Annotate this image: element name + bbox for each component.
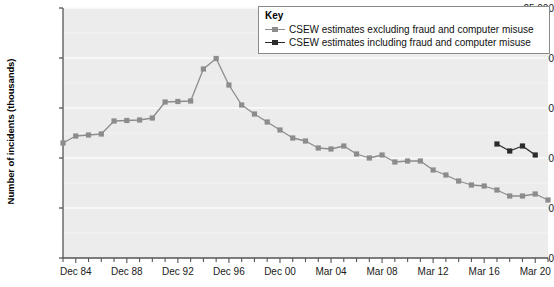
data-point-marker [316,145,321,150]
data-point-marker [507,193,512,198]
data-point-marker [341,143,346,148]
data-point-marker [137,117,142,122]
data-point-marker [328,146,333,151]
legend-item-label: CSEW estimates including fraud and compu… [289,36,531,49]
data-point-marker [482,183,487,188]
data-point-marker [73,133,78,138]
data-point-marker [175,99,180,104]
data-point-marker [265,119,270,124]
data-point-marker [354,151,359,156]
legend-item: CSEW estimates excluding fraud and compu… [265,23,543,36]
data-point-marker [150,115,155,120]
data-point-marker [533,152,538,157]
data-point-marker [99,131,104,136]
data-point-marker [418,158,423,163]
data-point-marker [60,140,65,145]
data-point-marker [163,99,168,104]
data-point-marker [507,148,512,153]
data-point-marker [520,193,525,198]
data-point-marker [252,111,257,116]
data-point-marker [443,172,448,177]
data-point-marker [111,118,116,123]
data-point-marker [188,98,193,103]
data-point-marker [545,197,550,202]
data-point-marker [469,182,474,187]
x-axis-ticks [63,258,548,263]
data-point-marker [392,159,397,164]
data-point-marker [290,135,295,140]
legend-item-label: CSEW estimates excluding fraud and compu… [289,23,534,36]
data-point-marker [214,56,219,61]
legend-rows: CSEW estimates excluding fraud and compu… [265,23,543,49]
legend: Key CSEW estimates excluding fraud and c… [258,6,550,54]
legend-swatch-icon [265,38,285,48]
data-point-marker [239,102,244,107]
data-point-marker [520,143,525,148]
data-point-marker [533,191,538,196]
data-point-marker [405,158,410,163]
data-point-marker [494,141,499,146]
data-point-marker [226,82,231,87]
data-point-marker [303,138,308,143]
data-point-marker [379,152,384,157]
legend-swatch-icon [265,25,285,35]
data-point-marker [494,187,499,192]
data-point-marker [277,127,282,132]
data-point-marker [124,118,129,123]
data-point-marker [367,155,372,160]
legend-item: CSEW estimates including fraud and compu… [265,36,543,49]
data-point-marker [86,132,91,137]
data-point-marker [456,178,461,183]
chart-container: Number of incidents (thousands) 05,00010… [0,0,554,287]
data-point-marker [201,66,206,71]
data-point-marker [431,167,436,172]
legend-title: Key [265,10,543,22]
